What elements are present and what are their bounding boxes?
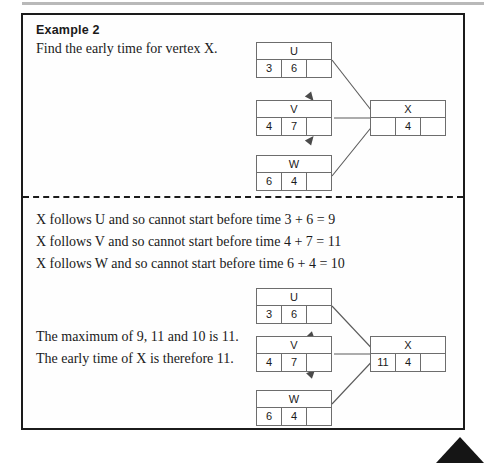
- reasoning-line: X follows W and so cannot start before t…: [36, 256, 345, 272]
- vertex-cell-late: [307, 408, 331, 425]
- vertex-cell-late: [421, 354, 445, 371]
- vertex-cell-late: [307, 354, 331, 371]
- vertex-node-w-upper: W 6 4: [256, 155, 332, 191]
- vertex-cell-early: 4: [257, 118, 282, 135]
- vertex-cell-duration: 4: [396, 118, 421, 135]
- page-title: Example 2: [36, 23, 100, 37]
- section-dashed-divider: [23, 196, 463, 198]
- vertex-node-u-lower: U 3 6: [256, 288, 332, 324]
- vertex-cell-early: 4: [257, 354, 282, 371]
- vertex-cell-duration: 4: [282, 173, 307, 190]
- vertex-node-u-upper: U 3 6: [256, 42, 332, 78]
- vertex-cell-late: [421, 118, 445, 135]
- vertex-node-x-lower: X 11 4: [370, 336, 446, 372]
- vertex-label: X: [371, 101, 445, 118]
- reasoning-line: X follows U and so cannot start before t…: [36, 212, 335, 228]
- vertex-cell-duration: 7: [282, 354, 307, 371]
- vertex-cell-duration: 6: [282, 60, 307, 77]
- conclusion-line: The early time of X is therefore 11.: [36, 351, 234, 367]
- vertex-node-x-upper: X 4: [370, 100, 446, 136]
- vertex-cell-late: [307, 118, 331, 135]
- vertex-label: U: [257, 43, 331, 60]
- vertex-cell-early: 6: [257, 173, 282, 190]
- example-prompt-text: Find the early time for vertex X.: [36, 41, 218, 57]
- vertex-cell-early: 11: [371, 354, 396, 371]
- vertex-label: V: [257, 101, 331, 118]
- vertex-cell-early: 3: [257, 306, 282, 323]
- vertex-cell-late: [307, 173, 331, 190]
- vertex-cell-duration: 7: [282, 118, 307, 135]
- vertex-label: W: [257, 156, 331, 173]
- vertex-node-v-lower: V 4 7: [256, 336, 332, 372]
- vertex-label: V: [257, 337, 331, 354]
- vertex-label: X: [371, 337, 445, 354]
- vertex-label: W: [257, 391, 331, 408]
- vertex-node-v-upper: V 4 7: [256, 100, 332, 136]
- vertex-cell-early: 6: [257, 408, 282, 425]
- vertex-node-w-lower: W 6 4: [256, 390, 332, 426]
- scan-artifact-bar: [22, 2, 484, 5]
- vertex-cell-early: [371, 118, 396, 135]
- vertex-cell-early: 3: [257, 60, 282, 77]
- conclusion-line: The maximum of 9, 11 and 10 is 11.: [36, 329, 239, 345]
- vertex-cell-duration: 4: [282, 408, 307, 425]
- vertex-cell-late: [307, 60, 331, 77]
- reasoning-line: X follows V and so cannot start before t…: [36, 234, 341, 250]
- vertex-label: U: [257, 289, 331, 306]
- vertex-cell-late: [307, 306, 331, 323]
- page-corner-mark: [436, 437, 484, 463]
- vertex-cell-duration: 4: [396, 354, 421, 371]
- vertex-cell-duration: 6: [282, 306, 307, 323]
